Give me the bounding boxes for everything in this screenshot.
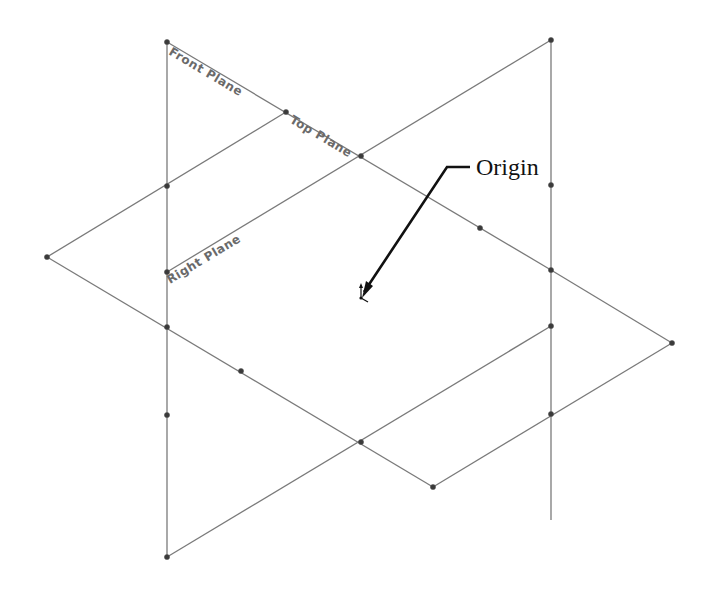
right-plane-label[interactable]: Right Plane	[164, 232, 243, 287]
origin-callout-label: Origin	[476, 154, 539, 180]
origin-callout: Origin	[362, 154, 539, 298]
vertex-point[interactable]	[358, 439, 363, 444]
vertex-point[interactable]	[477, 225, 482, 230]
origin-leader-line	[364, 167, 470, 292]
vertex-point[interactable]	[548, 267, 553, 272]
origin-arrowhead-icon	[362, 281, 373, 298]
vertex-point[interactable]	[238, 368, 243, 373]
vertex-point[interactable]	[164, 39, 169, 44]
reference-planes-diagram: Front Plane Top Plane Right Plane Origin	[0, 0, 711, 596]
vertex-point[interactable]	[548, 37, 553, 42]
top-plane-label[interactable]: Top Plane	[287, 113, 354, 161]
plane-edge-line[interactable]	[551, 270, 672, 343]
vertex-point[interactable]	[548, 182, 553, 187]
vertex-point[interactable]	[669, 340, 674, 345]
vertex-point[interactable]	[164, 412, 169, 417]
vertex-point[interactable]	[548, 323, 553, 328]
vertex-point[interactable]	[164, 324, 169, 329]
front-plane-label[interactable]: Front Plane	[166, 45, 245, 100]
vertex-point[interactable]	[164, 554, 169, 559]
vertex-point[interactable]	[44, 254, 49, 259]
vertex-point[interactable]	[283, 109, 288, 114]
vertex-point[interactable]	[430, 484, 435, 489]
vertex-point[interactable]	[164, 183, 169, 188]
vertex-point[interactable]	[358, 153, 363, 158]
vertex-point[interactable]	[548, 411, 553, 416]
